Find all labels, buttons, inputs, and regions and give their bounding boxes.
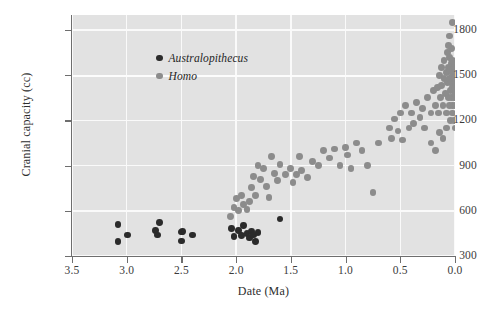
y-tick-label: 1200 <box>415 114 477 126</box>
data-point-homo <box>430 87 437 94</box>
data-point-homo <box>446 54 453 61</box>
data-point-homo <box>353 140 360 147</box>
data-point-australopithecus <box>228 225 235 232</box>
legend: Australopithecus Homo <box>156 50 248 86</box>
data-point-australopithecus <box>244 230 251 237</box>
y-axis-title: Cranial capacity (cc) <box>19 25 34 225</box>
data-point-australopithecus <box>255 229 262 236</box>
gridline-horizontal <box>72 29 455 30</box>
x-tick-mark <box>181 257 182 263</box>
data-point-homo <box>434 84 441 91</box>
figure-canvas: Australopithecus Homo 300600900120015001… <box>0 0 477 310</box>
data-point-australopithecus <box>238 232 245 239</box>
data-point-australopithecus <box>252 238 259 245</box>
data-point-homo <box>413 99 420 106</box>
x-tick-label: 3.5 <box>52 265 92 277</box>
data-point-homo <box>250 173 257 180</box>
data-point-homo <box>408 110 415 117</box>
data-point-homo <box>227 213 234 220</box>
data-point-australopithecus <box>248 228 255 235</box>
data-point-homo <box>432 102 439 109</box>
x-tick-mark <box>291 257 292 263</box>
x-tick-mark <box>400 257 401 263</box>
data-point-australopithecus <box>115 238 122 245</box>
data-point-homo <box>326 155 333 162</box>
x-tick-mark <box>72 257 73 263</box>
data-point-homo <box>296 153 303 160</box>
y-tick-mark <box>65 256 71 257</box>
gridline-vertical <box>400 15 401 256</box>
plot-panel: Australopithecus Homo <box>72 15 455 256</box>
data-point-homo <box>441 57 448 64</box>
data-point-homo <box>293 171 300 178</box>
data-point-homo <box>419 105 426 112</box>
gridline-horizontal <box>72 165 455 166</box>
x-tick-mark <box>236 257 237 263</box>
data-point-homo <box>266 194 273 201</box>
y-axis-line <box>71 15 72 257</box>
gridline-horizontal <box>72 75 455 77</box>
data-point-homo <box>445 94 452 101</box>
data-point-homo <box>386 125 393 132</box>
x-axis-title: Date (Ma) <box>72 284 455 299</box>
data-point-australopithecus <box>246 235 253 242</box>
y-tick-label: 600 <box>415 205 477 217</box>
legend-swatch-australopithecus-icon <box>156 55 163 62</box>
data-point-homo <box>309 158 316 165</box>
data-point-australopithecus <box>156 219 163 226</box>
data-point-homo <box>442 90 449 97</box>
gridline-vertical <box>345 15 346 256</box>
data-point-homo <box>246 198 253 205</box>
y-tick-label: 1800 <box>415 24 477 36</box>
gridline-horizontal <box>72 120 455 121</box>
x-tick-mark <box>127 257 128 263</box>
x-tick-label: 0.0 <box>435 265 475 277</box>
data-point-australopithecus <box>250 232 257 239</box>
x-tick-label: 1.0 <box>326 265 366 277</box>
data-point-homo <box>359 147 366 154</box>
data-point-homo <box>271 170 278 177</box>
data-point-australopithecus <box>154 232 161 239</box>
data-point-homo <box>248 184 255 191</box>
x-tick-label: 2.0 <box>216 265 256 277</box>
data-point-homo <box>263 183 270 190</box>
data-point-homo <box>370 189 377 196</box>
data-point-australopithecus <box>152 227 159 234</box>
data-point-homo <box>447 87 454 94</box>
gridline-horizontal <box>72 210 455 211</box>
data-point-homo <box>402 102 409 109</box>
data-point-homo <box>257 176 264 183</box>
data-point-homo <box>440 102 447 109</box>
data-point-homo <box>436 129 443 136</box>
data-point-homo <box>406 125 413 132</box>
x-tick-label: 2.5 <box>161 265 201 277</box>
x-tick-mark <box>455 257 456 263</box>
data-point-homo <box>304 174 311 181</box>
data-point-homo <box>375 140 382 147</box>
data-point-homo <box>298 167 305 174</box>
data-point-homo <box>424 94 431 101</box>
y-tick-mark <box>65 120 71 121</box>
data-point-homo <box>428 140 435 147</box>
gridline-vertical <box>454 15 455 256</box>
data-point-homo <box>388 135 395 142</box>
data-point-homo <box>437 94 444 101</box>
data-point-homo <box>252 192 259 199</box>
data-point-homo <box>445 42 452 49</box>
legend-label-homo: Homo <box>169 70 198 82</box>
data-point-homo <box>331 146 338 153</box>
data-point-australopithecus <box>240 222 247 229</box>
data-point-homo <box>320 147 327 154</box>
y-tick-label: 900 <box>415 160 477 172</box>
data-point-homo <box>268 153 275 160</box>
data-point-australopithecus <box>277 216 284 223</box>
data-point-homo <box>440 135 447 142</box>
x-tick-label: 3.0 <box>107 265 147 277</box>
data-point-homo <box>444 49 451 56</box>
data-point-australopithecus <box>189 232 196 239</box>
x-axis-line <box>71 256 456 257</box>
data-point-homo <box>274 177 281 184</box>
x-tick-label: 0.5 <box>380 265 420 277</box>
data-point-homo <box>238 192 245 199</box>
y-tick-mark <box>65 30 71 31</box>
